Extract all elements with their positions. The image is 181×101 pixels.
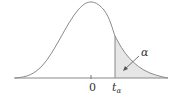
zero-label: 0 bbox=[89, 81, 96, 94]
density-curve bbox=[15, 2, 168, 78]
t-distribution-diagram: α 0 tα bbox=[0, 0, 181, 101]
critical-value-subscript: α bbox=[116, 87, 121, 95]
area-label: α bbox=[141, 46, 149, 59]
critical-value-label: tα bbox=[112, 81, 121, 95]
